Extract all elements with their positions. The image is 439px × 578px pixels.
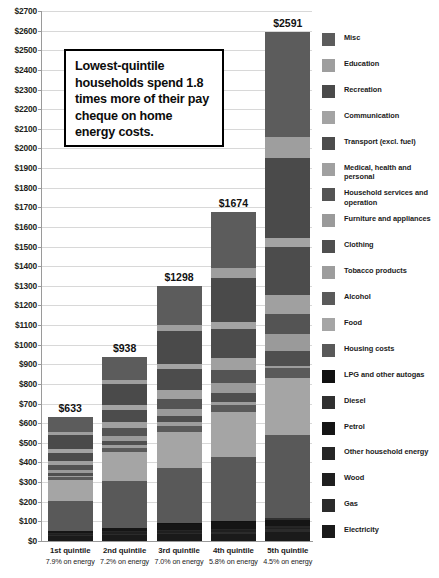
legend-item-label: Communication (344, 111, 399, 120)
bar-segment (211, 358, 256, 370)
y-axis-tick-label: $900 (0, 359, 37, 369)
annotation-callout: Lowest-quintile households spend 1.8 tim… (64, 49, 224, 147)
legend-item-label: Misc (344, 33, 360, 42)
bar-segment (265, 295, 310, 314)
bar-segment (48, 453, 93, 461)
legend-item[interactable]: Housing costs (322, 344, 394, 370)
y-axis-tick-label: $2000 (0, 143, 37, 153)
bar-segment (265, 314, 310, 335)
y-axis-tick-label: $1500 (0, 242, 37, 252)
y-axis-tick-label: $1100 (0, 320, 37, 330)
legend-color-swatch (322, 344, 335, 357)
bar-segment (211, 534, 256, 541)
bar-segment (48, 480, 93, 501)
bar-segment (211, 405, 256, 412)
bar-segment (211, 457, 256, 521)
y-axis-tick-label: $2200 (0, 104, 37, 114)
legend-item[interactable]: Diesel (322, 396, 365, 422)
y-axis-tick-label: $1700 (0, 202, 37, 212)
bar-segment (211, 212, 256, 268)
legend-item-label: Diesel (344, 396, 365, 405)
legend-color-swatch (322, 163, 335, 176)
legend-item[interactable]: Gas (322, 499, 358, 525)
legend-color-swatch (322, 525, 335, 538)
legend-item-label: Tobacco products (344, 266, 407, 275)
legend-item[interactable]: Education (322, 59, 379, 85)
y-axis-tick-label: $2600 (0, 26, 37, 36)
legend-item[interactable]: Tobacco products (322, 266, 407, 292)
legend-item-label: Food (344, 318, 362, 327)
bar-segment (211, 370, 256, 384)
bar-segment (102, 428, 147, 436)
bar-segment (157, 390, 202, 399)
legend-item[interactable]: Electricity (322, 525, 379, 551)
legend-color-swatch (322, 292, 335, 305)
bar-segment (265, 532, 310, 541)
bar-segment (48, 417, 93, 432)
bar-segment (48, 536, 93, 541)
y-axis-tick-label: $300 (0, 477, 37, 487)
bar-2 (102, 357, 147, 541)
y-axis-tick-label: $2700 (0, 6, 37, 16)
bar-3 (157, 286, 202, 541)
y-axis-tick-label: $800 (0, 379, 37, 389)
y-axis-tick-label: $100 (0, 516, 37, 526)
bar-segment (265, 368, 310, 378)
legend-item[interactable]: Food (322, 318, 362, 344)
bar-segment (211, 278, 256, 322)
legend-item[interactable]: Misc (322, 33, 360, 59)
bar-segment (265, 520, 310, 527)
legend-item[interactable]: LPG and other autogas (322, 370, 424, 396)
y-axis-tick-label: $600 (0, 418, 37, 428)
legend-color-swatch (322, 240, 335, 253)
bar-segment (265, 435, 310, 518)
annotation-text: Lowest-quintile households spend 1.8 tim… (75, 58, 214, 141)
legend-color-swatch (322, 137, 335, 150)
legend-item-label: Medical, health and personal (344, 163, 439, 182)
stacked-bar-chart: $2700$2600$2500$2400$2300$2200$2100$2000… (0, 0, 439, 578)
bar-segment (265, 334, 310, 351)
legend-color-swatch (322, 499, 335, 512)
legend-item[interactable]: Communication (322, 111, 399, 137)
legend-item[interactable]: Other household energy (322, 447, 428, 473)
bar-segment (157, 399, 202, 409)
legend-item-label: Gas (344, 499, 358, 508)
legend-item-label: LPG and other autogas (344, 370, 424, 379)
x-axis-label-5: 5th quintile4.5% on energy (255, 546, 321, 566)
y-axis-tick-label: $2100 (0, 124, 37, 134)
legend-color-swatch (322, 111, 335, 124)
legend-item[interactable]: Household services and operation (322, 188, 428, 214)
y-axis-tick-label: $1900 (0, 163, 37, 173)
legend-item[interactable]: Wood (322, 473, 364, 499)
legend-item-label: Petrol (344, 422, 365, 431)
legend-item-label: Furniture and appliances (344, 214, 431, 223)
bar-segment (102, 452, 147, 481)
bar-segment (265, 247, 310, 295)
legend-item[interactable]: Clothing (322, 240, 374, 266)
legend-item-label: Other household energy (344, 447, 428, 456)
y-axis-tick-label: $500 (0, 438, 37, 448)
y-axis-tick-label: $200 (0, 497, 37, 507)
legend-item-label: Alcohol (344, 292, 371, 301)
y-axis-tick-label: $0 (0, 536, 37, 546)
legend-item[interactable]: Recreation (322, 85, 382, 111)
bar-1 (48, 417, 93, 541)
energy-share-note: 4.5% on energy (255, 557, 321, 566)
legend-item-label: Education (344, 59, 379, 68)
legend-item[interactable]: Alcohol (322, 292, 371, 318)
legend-item[interactable]: Transport (excl. fuel) (322, 137, 416, 163)
y-axis-tick-label: $400 (0, 457, 37, 467)
bar-segment (157, 286, 202, 324)
y-axis-tick-label: $1400 (0, 261, 37, 271)
legend-item[interactable]: Medical, health and personal (322, 163, 439, 189)
bar-segment (157, 369, 202, 390)
legend-color-swatch (322, 396, 335, 409)
bar-segment (102, 481, 147, 528)
legend-item[interactable]: Furniture and appliances (322, 214, 431, 240)
bar-segment (48, 501, 93, 531)
y-axis-line (41, 11, 42, 542)
legend-item-label: Electricity (344, 525, 379, 534)
legend-item[interactable]: Petrol (322, 422, 365, 448)
legend-color-swatch (322, 214, 335, 227)
bar-segment (265, 238, 310, 247)
